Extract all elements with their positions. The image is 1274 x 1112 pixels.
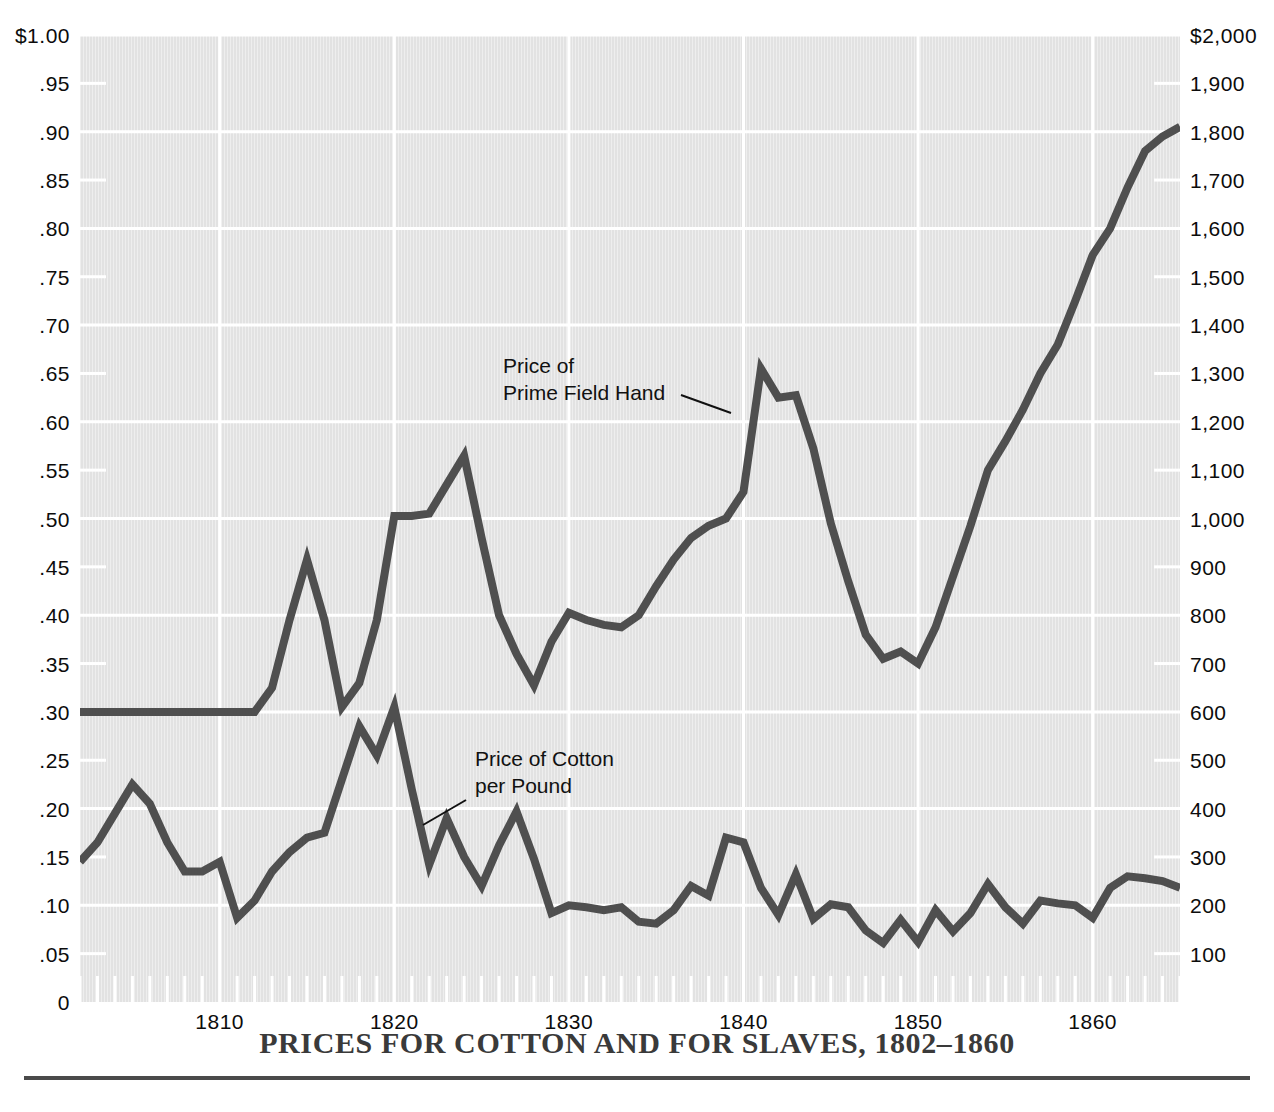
left-axis-tick-label: .50	[39, 509, 70, 530]
right-axis-tick-label: 300	[1190, 847, 1227, 868]
left-axis-tick-label: .70	[39, 315, 70, 336]
right-axis-tick-label: 1,900	[1190, 73, 1245, 94]
chart-figure: $1.00.95.90.85.80.75.70.65.60.55.50.45.4…	[0, 0, 1274, 1112]
annotation-cotton-price: Price of Cotton per Pound	[475, 745, 614, 800]
left-axis-tick-label: .35	[39, 654, 70, 675]
right-axis-tick-label: 200	[1190, 895, 1227, 916]
left-axis-tick-label: .05	[39, 944, 70, 965]
left-axis-tick-label: .40	[39, 605, 70, 626]
left-axis-tick-label: .10	[39, 895, 70, 916]
left-axis-tick-label: .45	[39, 557, 70, 578]
right-axis-tick-label: 900	[1190, 557, 1227, 578]
left-axis-tick-label: .65	[39, 363, 70, 384]
page-title: PRICES FOR COTTON AND FOR SLAVES, 1802–1…	[0, 1026, 1274, 1060]
annotation-prime-field-hand: Price of Prime Field Hand	[503, 352, 665, 407]
right-axis-tick-label: 1,300	[1190, 363, 1245, 384]
right-axis-tick-label: 1,100	[1190, 460, 1245, 481]
left-axis-tick-label: $1.00	[15, 25, 70, 46]
left-axis-tick-label: .80	[39, 218, 70, 239]
right-axis-tick-label: 1,500	[1190, 267, 1245, 288]
data-lines	[80, 35, 1180, 1002]
left-axis-tick-label: .60	[39, 412, 70, 433]
right-axis-tick-label: 100	[1190, 944, 1227, 965]
left-axis-tick-label: .90	[39, 122, 70, 143]
left-axis-tick-label: .25	[39, 750, 70, 771]
left-axis-tick-label: .85	[39, 170, 70, 191]
left-axis-tick-label: .75	[39, 267, 70, 288]
bottom-rule	[24, 1076, 1250, 1080]
left-axis-tick-label: .15	[39, 847, 70, 868]
left-axis-tick-label: .20	[39, 799, 70, 820]
left-axis-tick-label: .30	[39, 702, 70, 723]
right-axis-tick-label: 800	[1190, 605, 1227, 626]
right-axis-tick-label: 1,800	[1190, 122, 1245, 143]
right-axis-tick-label: 500	[1190, 750, 1227, 771]
right-axis-tick-label: 1,000	[1190, 509, 1245, 530]
right-axis-tick-label: 1,700	[1190, 170, 1245, 191]
right-axis-tick-label: 600	[1190, 702, 1227, 723]
right-axis-tick-label: $2,000	[1190, 25, 1257, 46]
right-axis-tick-label: 1,200	[1190, 412, 1245, 433]
left-axis-tick-label: .55	[39, 460, 70, 481]
right-axis-tick-label: 1,400	[1190, 315, 1245, 336]
plot-area	[80, 35, 1180, 1002]
left-axis-tick-label: 0	[58, 992, 70, 1013]
right-axis-tick-label: 1,600	[1190, 218, 1245, 239]
left-axis-tick-label: .95	[39, 73, 70, 94]
right-axis-tick-label: 700	[1190, 654, 1227, 675]
right-axis-tick-label: 400	[1190, 799, 1227, 820]
